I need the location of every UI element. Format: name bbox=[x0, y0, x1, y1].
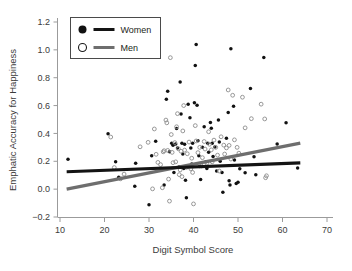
data-point bbox=[179, 112, 183, 116]
x-tick-label: 10 bbox=[55, 225, 65, 235]
data-point bbox=[184, 178, 188, 182]
data-point bbox=[176, 112, 180, 116]
data-point bbox=[227, 179, 231, 183]
x-tick-label: 40 bbox=[188, 225, 198, 235]
data-point bbox=[152, 127, 156, 131]
data-point bbox=[217, 118, 221, 122]
data-point bbox=[181, 129, 185, 133]
y-tick-label: 1.2 bbox=[37, 17, 50, 27]
data-point bbox=[227, 144, 231, 148]
data-point bbox=[109, 135, 113, 139]
data-point bbox=[225, 136, 229, 140]
data-point bbox=[191, 171, 195, 175]
data-point bbox=[165, 98, 169, 102]
y-tick-label: 0.8 bbox=[37, 73, 50, 83]
legend-box bbox=[71, 18, 161, 59]
data-point bbox=[233, 138, 237, 142]
data-point bbox=[169, 133, 173, 137]
data-point bbox=[185, 196, 189, 200]
y-tick-label: −0.2 bbox=[32, 212, 50, 222]
data-point bbox=[167, 177, 171, 181]
data-point bbox=[187, 140, 191, 144]
legend-label-men: Men bbox=[121, 43, 139, 53]
trend-line-women bbox=[67, 163, 301, 172]
data-point bbox=[249, 87, 253, 91]
data-point bbox=[182, 104, 186, 108]
data-point bbox=[228, 183, 232, 187]
data-point bbox=[218, 140, 222, 144]
data-point bbox=[199, 178, 203, 182]
legend-label-women: Women bbox=[121, 25, 152, 35]
data-point bbox=[259, 102, 263, 106]
data-point bbox=[133, 185, 137, 189]
data-point bbox=[229, 47, 233, 51]
data-point bbox=[185, 152, 189, 156]
x-tick-label: 60 bbox=[277, 225, 287, 235]
data-point bbox=[154, 140, 158, 144]
data-point bbox=[192, 202, 196, 206]
x-tick-label: 20 bbox=[99, 225, 109, 235]
data-point bbox=[201, 156, 205, 160]
data-point bbox=[195, 104, 199, 108]
data-point bbox=[172, 171, 176, 175]
data-point bbox=[189, 146, 193, 150]
data-point bbox=[168, 56, 172, 60]
data-point bbox=[160, 186, 164, 190]
data-point bbox=[207, 130, 211, 134]
data-point bbox=[284, 121, 288, 125]
y-tick-label: 0.2 bbox=[37, 156, 50, 166]
data-point bbox=[216, 153, 220, 157]
x-tick-label: 50 bbox=[233, 225, 243, 235]
data-point bbox=[202, 140, 206, 144]
data-point bbox=[151, 187, 155, 191]
data-point bbox=[252, 155, 256, 159]
data-point bbox=[235, 145, 239, 149]
data-point bbox=[190, 156, 194, 160]
data-point bbox=[263, 117, 267, 121]
data-point bbox=[203, 147, 207, 151]
data-point bbox=[232, 104, 236, 108]
data-point bbox=[194, 64, 198, 68]
legend-marker-open-circle bbox=[79, 44, 87, 52]
data-point bbox=[238, 167, 242, 171]
data-point bbox=[154, 152, 158, 156]
data-point bbox=[159, 163, 163, 167]
data-point bbox=[166, 89, 170, 93]
data-point bbox=[241, 95, 245, 99]
data-point bbox=[188, 116, 192, 120]
data-point bbox=[134, 161, 138, 165]
data-point bbox=[178, 80, 182, 84]
data-point bbox=[146, 140, 150, 144]
y-tick-label: 0.0 bbox=[37, 184, 50, 194]
y-tick-label: 0.6 bbox=[37, 101, 50, 111]
y-tick-label: 1.0 bbox=[37, 45, 50, 55]
x-tick-label: 30 bbox=[144, 225, 154, 235]
data-point bbox=[114, 160, 118, 164]
data-point bbox=[275, 142, 279, 146]
y-tick-label: 0.4 bbox=[37, 129, 50, 139]
data-point bbox=[236, 180, 240, 184]
data-point bbox=[122, 172, 126, 176]
data-point bbox=[186, 102, 190, 106]
legend-marker-filled-circle bbox=[79, 26, 87, 34]
data-point bbox=[150, 154, 154, 158]
data-point bbox=[193, 101, 197, 105]
data-point bbox=[226, 88, 230, 92]
data-point bbox=[249, 117, 253, 121]
data-point bbox=[209, 121, 213, 125]
data-point bbox=[231, 93, 235, 97]
data-point bbox=[226, 111, 230, 115]
data-point bbox=[183, 148, 187, 152]
data-point bbox=[168, 199, 172, 203]
data-point bbox=[212, 138, 216, 142]
data-point bbox=[211, 155, 215, 159]
data-point bbox=[223, 152, 227, 156]
data-point bbox=[243, 126, 247, 130]
data-point bbox=[180, 175, 184, 179]
data-point bbox=[233, 158, 237, 162]
data-point bbox=[194, 43, 198, 47]
data-point bbox=[262, 56, 266, 60]
data-point bbox=[183, 143, 187, 147]
data-point bbox=[219, 135, 223, 139]
data-point bbox=[209, 148, 213, 152]
